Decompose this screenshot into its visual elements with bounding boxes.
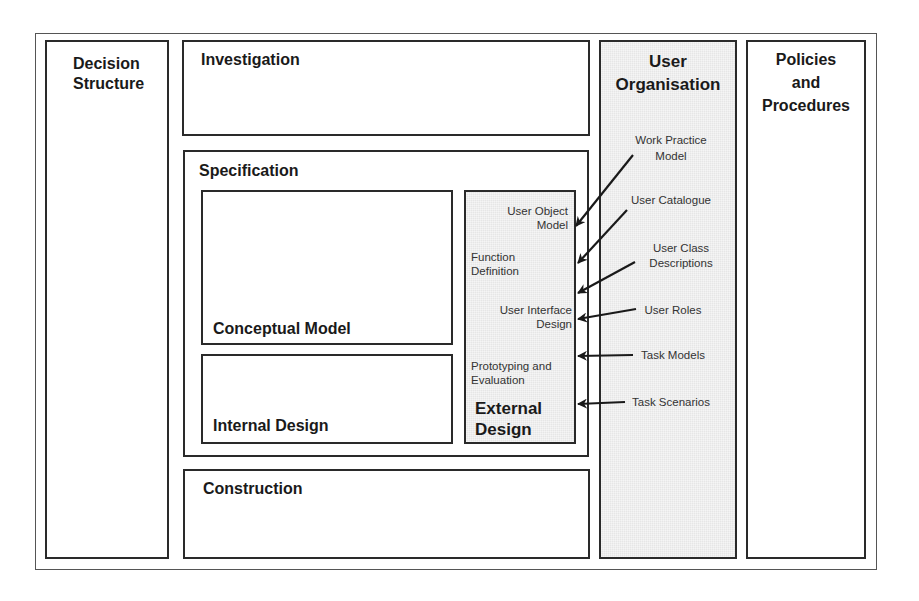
investigation-title: Investigation <box>201 50 300 70</box>
user-organisation-title: User Organisation <box>601 50 735 96</box>
external-design-box: User Object Model Function Definition Us… <box>464 190 576 444</box>
construction-title: Construction <box>203 479 303 499</box>
internal-design-box: Internal Design <box>201 354 453 444</box>
policies-and-procedures-box: Policies and Procedures <box>746 40 866 559</box>
external-item-user-interface-design: User Interface Design <box>500 303 572 331</box>
user-org-item-user-class-descriptions: User Class Descriptions <box>621 241 741 271</box>
construction-box: Construction <box>183 469 590 559</box>
user-organisation-box: User Organisation Work Practice Model Us… <box>599 40 737 559</box>
user-org-item-user-catalogue: User Catalogue <box>611 193 731 207</box>
investigation-box: Investigation <box>182 40 590 136</box>
internal-design-title: Internal Design <box>213 416 329 436</box>
decision-structure-title: Decision Structure <box>73 54 144 94</box>
external-design-title: External Design <box>475 398 542 440</box>
user-org-item-task-models: Task Models <box>613 348 733 362</box>
user-org-item-work-practice-model: Work Practice Model <box>611 132 731 164</box>
decision-structure-box: Decision Structure <box>45 40 169 559</box>
policies-and-procedures-title: Policies and Procedures <box>748 48 864 117</box>
external-item-user-object-model: User Object Model <box>507 204 568 232</box>
conceptual-model-title: Conceptual Model <box>213 319 351 339</box>
user-org-item-user-roles: User Roles <box>613 303 733 317</box>
conceptual-model-box: Conceptual Model <box>201 190 453 345</box>
specification-title: Specification <box>199 161 299 181</box>
external-item-prototyping-evaluation: Prototyping and Evaluation <box>471 359 552 387</box>
user-org-item-task-scenarios: Task Scenarios <box>611 395 731 409</box>
external-item-function-definition: Function Definition <box>471 250 519 278</box>
